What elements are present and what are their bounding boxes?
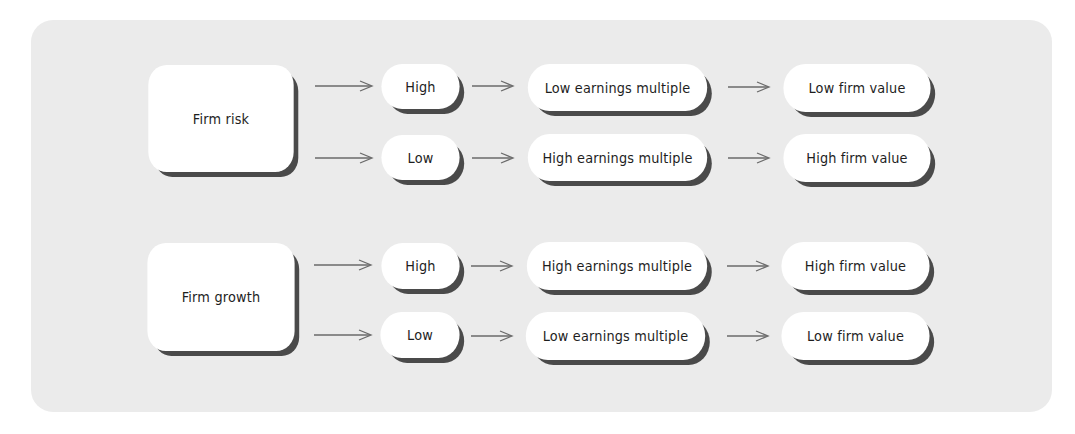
- driver-firm-growth: Firm growth: [147, 243, 294, 351]
- value-pill: Low firm value: [781, 312, 929, 360]
- value-pill: Low firm value: [783, 64, 930, 112]
- level-pill: Low: [380, 312, 459, 358]
- arrow-icon: [728, 81, 770, 93]
- arrow-icon: [471, 260, 513, 272]
- driver-firm-risk: Firm risk: [148, 65, 293, 172]
- value-pill: High firm value: [781, 242, 929, 290]
- level-pill: High: [381, 64, 459, 109]
- value-pill: High firm value: [783, 134, 930, 182]
- multiple-pill: Low earnings multiple: [528, 64, 707, 111]
- level-pill: Low: [381, 135, 459, 180]
- arrow-icon: [728, 152, 770, 164]
- arrow-icon: [472, 152, 514, 164]
- level-pill: High: [381, 243, 459, 289]
- arrow-icon: [472, 80, 514, 92]
- arrow-icon: [471, 330, 513, 342]
- multiple-pill: Low earnings multiple: [526, 312, 705, 360]
- arrow-icon: [314, 329, 372, 341]
- arrow-icon: [727, 330, 769, 342]
- arrow-icon: [727, 260, 769, 272]
- arrow-icon: [315, 152, 373, 164]
- driver-label: Firm growth: [182, 289, 261, 305]
- arrow-icon: [314, 259, 372, 271]
- multiple-pill: High earnings multiple: [528, 134, 707, 181]
- driver-label: Firm risk: [193, 111, 249, 127]
- multiple-pill: High earnings multiple: [527, 242, 707, 290]
- arrow-icon: [315, 80, 373, 92]
